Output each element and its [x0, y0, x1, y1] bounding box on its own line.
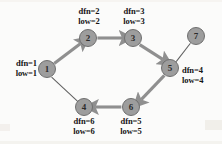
node-2-annotation: dfn=2 low=2 — [70, 7, 108, 26]
node-2-low-text: low=2 — [70, 17, 108, 27]
node-3-label: 3 — [131, 34, 136, 43]
node-5-annotation: dfn=4 low=4 — [182, 66, 222, 85]
scan-artifact — [205, 120, 222, 130]
node-6[interactable]: 6 — [122, 98, 140, 116]
node-1-label: 1 — [45, 65, 50, 74]
node-6-annotation: dfn=5 low=5 — [112, 117, 150, 136]
node-7-label: 7 — [194, 32, 199, 41]
scan-artifact — [0, 141, 222, 144]
edge-1-to-2 — [54, 44, 80, 64]
node-1[interactable]: 1 — [38, 60, 56, 78]
edge-1-to-4 — [52, 77, 79, 102]
node-5-label: 5 — [168, 64, 173, 73]
node-3[interactable]: 3 — [124, 29, 142, 47]
edge-3-to-5 — [140, 45, 163, 60]
node-2[interactable]: 2 — [79, 29, 97, 47]
edge-5-to-6 — [141, 75, 164, 99]
node-1-annotation: dfn=1 low=1 — [1, 59, 37, 78]
node-6-label: 6 — [129, 103, 134, 112]
node-4-label: 4 — [82, 103, 87, 112]
graph-diagram-canvas: 1 2 3 4 5 6 7 dfn=1 low=1 dfn=2 low=2 df… — [0, 0, 222, 144]
node-4-annotation: dfn=6 low=6 — [65, 117, 103, 136]
scan-artifact — [0, 124, 10, 131]
node-5[interactable]: 5 — [161, 59, 179, 77]
node-4[interactable]: 4 — [75, 98, 93, 116]
node-6-low-text: low=5 — [112, 127, 150, 137]
node-2-label: 2 — [86, 34, 91, 43]
node-4-low-text: low=6 — [65, 127, 103, 137]
edge-5-to-7 — [176, 43, 190, 61]
node-7[interactable]: 7 — [187, 27, 205, 45]
scan-artifact — [0, 0, 222, 2]
node-1-low-text: low=1 — [1, 69, 37, 79]
node-5-low-text: low=4 — [182, 76, 222, 86]
node-3-annotation: dfn=3 low=3 — [115, 7, 153, 26]
node-3-low-text: low=3 — [115, 17, 153, 27]
